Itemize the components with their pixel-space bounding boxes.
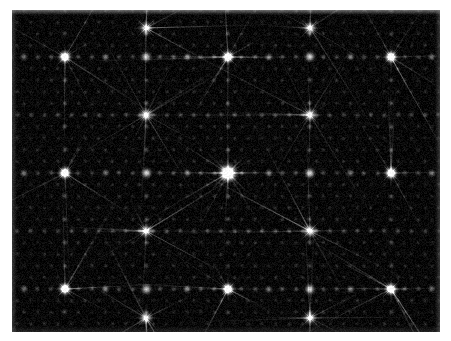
margin-top — [0, 0, 451, 10]
figure-stage — [0, 0, 451, 341]
diffraction-pattern-canvas — [12, 10, 440, 332]
diffraction-panel — [12, 10, 440, 332]
margin-right — [440, 0, 451, 341]
margin-left — [0, 0, 12, 341]
margin-bottom — [0, 332, 451, 341]
